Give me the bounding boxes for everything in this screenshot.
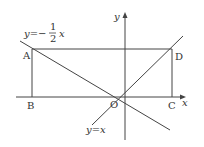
y-axis-arrow-icon	[123, 12, 128, 18]
y-axis-label: y	[113, 11, 120, 22]
point-label-A: A	[22, 50, 31, 61]
coordinate-diagram: A B C D O x y y=− 1 2 x y=x	[0, 0, 204, 147]
line-label-identity: y=x	[85, 124, 106, 135]
line-label-neg-half-num: 1	[50, 21, 56, 32]
line-label-neg-half-suffix: x	[59, 28, 65, 39]
point-label-D: D	[175, 51, 183, 62]
point-label-B: B	[27, 100, 34, 111]
line-label-neg-half-prefix: y=−	[23, 28, 46, 39]
line-label-neg-half-den: 2	[50, 33, 56, 44]
x-axis-label: x	[182, 97, 188, 108]
line-y-neg-half-x	[20, 41, 170, 130]
point-label-C: C	[168, 100, 176, 111]
origin-label: O	[110, 99, 118, 110]
